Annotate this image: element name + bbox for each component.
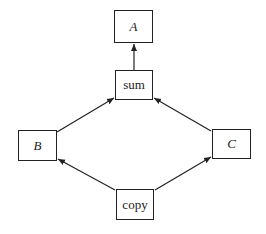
node-a-label: A bbox=[130, 19, 138, 35]
node-c: C bbox=[212, 129, 251, 159]
node-b: B bbox=[18, 130, 57, 161]
edge-copy-to-B bbox=[58, 159, 115, 190]
node-c-label: C bbox=[227, 136, 236, 152]
edge-copy-to-C bbox=[155, 157, 211, 190]
node-copy: copy bbox=[116, 189, 154, 220]
node-b-label: B bbox=[34, 138, 42, 154]
node-a: A bbox=[114, 10, 153, 43]
node-sum: sum bbox=[115, 70, 153, 100]
node-sum-label: sum bbox=[123, 77, 145, 93]
node-copy-label: copy bbox=[122, 197, 147, 213]
edge-C-to-sum bbox=[154, 98, 211, 131]
edge-B-to-sum bbox=[57, 98, 114, 132]
